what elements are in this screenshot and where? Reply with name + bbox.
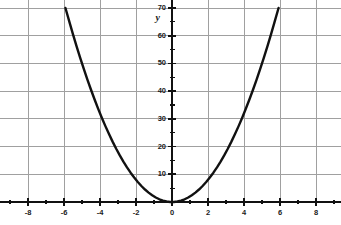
x-tick-label: -8 [25,209,32,217]
x-tick-label: -6 [61,209,68,217]
parabola-graph-figure: -8-6-4-202468 10203040506070 y [0,0,341,225]
y-tick-label: 70 [158,4,166,12]
x-tick-label: 6 [278,209,282,217]
plot-area [0,0,341,225]
plot-background [0,0,341,225]
x-tick-label: 0 [170,209,174,217]
y-tick-label: 30 [158,115,166,123]
x-tick-label: 4 [242,209,246,217]
y-tick-label: 10 [158,171,166,179]
x-tick-label: 8 [314,209,318,217]
y-tick-label: 50 [158,60,166,68]
x-tick-label: -2 [133,209,140,217]
x-tick-label: 2 [206,209,210,217]
y-tick-label: 20 [158,143,166,151]
x-tick-label: -4 [97,209,104,217]
y-axis-label: y [156,13,160,23]
y-tick-label: 60 [158,32,166,40]
y-tick-label: 40 [158,87,166,95]
